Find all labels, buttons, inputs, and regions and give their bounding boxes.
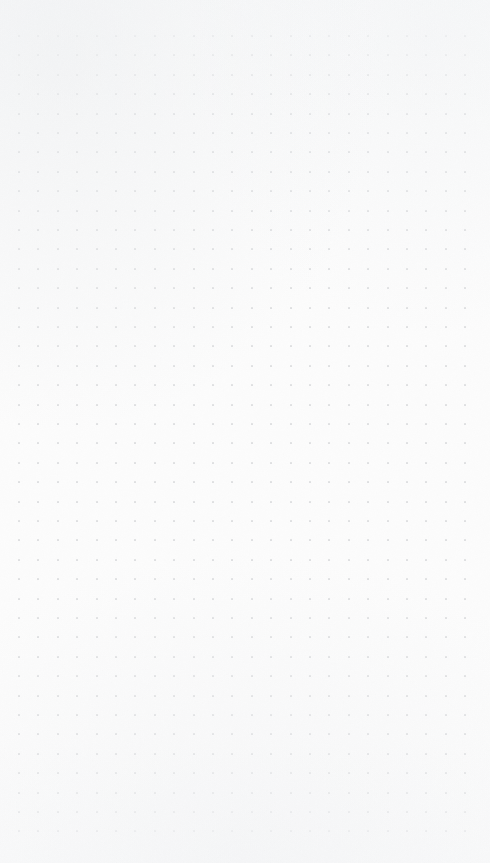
grid-dot	[251, 462, 253, 464]
grid-dot	[173, 753, 175, 755]
grid-dot	[290, 74, 292, 76]
grid-dot	[134, 811, 136, 813]
grid-dot	[96, 190, 98, 192]
grid-dot	[193, 695, 195, 697]
grid-dot	[173, 423, 175, 425]
grid-dot	[464, 714, 466, 716]
grid-dot	[309, 442, 311, 444]
grid-dot	[425, 35, 427, 37]
grid-dot	[212, 772, 214, 774]
grid-dot	[37, 675, 39, 677]
grid-dot	[193, 733, 195, 735]
grid-dot	[309, 559, 311, 561]
grid-dot	[348, 811, 350, 813]
grid-dot	[212, 74, 214, 76]
grid-dot	[76, 307, 78, 309]
grid-dot	[134, 481, 136, 483]
grid-dot	[231, 384, 233, 386]
grid-dot	[251, 210, 253, 212]
grid-dot	[406, 675, 408, 677]
grid-dot	[425, 93, 427, 95]
grid-dot	[270, 501, 272, 503]
grid-dot	[328, 772, 330, 774]
grid-dot	[154, 559, 156, 561]
grid-dot	[290, 733, 292, 735]
grid-dot	[328, 151, 330, 153]
grid-dot	[37, 326, 39, 328]
grid-dot	[154, 695, 156, 697]
grid-dot	[18, 54, 20, 56]
grid-dot	[270, 598, 272, 600]
grid-dot	[348, 326, 350, 328]
grid-dot	[193, 190, 195, 192]
grid-dot	[57, 35, 59, 37]
grid-dot	[445, 287, 447, 289]
grid-dot	[134, 559, 136, 561]
grid-dot	[173, 772, 175, 774]
grid-dot	[154, 539, 156, 541]
grid-dot	[290, 54, 292, 56]
grid-dot	[406, 559, 408, 561]
grid-dot	[464, 35, 466, 37]
grid-dot	[290, 462, 292, 464]
grid-dot	[18, 598, 20, 600]
grid-dot	[387, 733, 389, 735]
grid-dot	[348, 695, 350, 697]
grid-dot	[134, 307, 136, 309]
grid-dot	[464, 462, 466, 464]
grid-dot	[270, 675, 272, 677]
grid-dot	[37, 345, 39, 347]
grid-dot	[309, 248, 311, 250]
grid-dot	[231, 753, 233, 755]
grid-dot	[387, 384, 389, 386]
grid-dot	[231, 404, 233, 406]
grid-dot	[96, 210, 98, 212]
grid-dot	[18, 384, 20, 386]
grid-dot	[76, 404, 78, 406]
grid-dot	[37, 539, 39, 541]
grid-dot	[251, 190, 253, 192]
grid-dot	[76, 598, 78, 600]
grid-dot	[445, 481, 447, 483]
grid-dot	[18, 695, 20, 697]
grid-dot	[76, 132, 78, 134]
grid-dot	[173, 617, 175, 619]
grid-dot	[57, 287, 59, 289]
grid-dot	[76, 753, 78, 755]
grid-dot	[212, 326, 214, 328]
grid-dot	[37, 190, 39, 192]
grid-dot	[251, 695, 253, 697]
grid-dot	[425, 248, 427, 250]
grid-dot	[387, 54, 389, 56]
grid-dot	[309, 35, 311, 37]
grid-dot	[154, 151, 156, 153]
grid-dot	[37, 229, 39, 231]
grid-dot	[154, 404, 156, 406]
grid-dot	[387, 811, 389, 813]
grid-dot	[445, 598, 447, 600]
grid-dot	[328, 792, 330, 794]
grid-dot	[328, 598, 330, 600]
grid-dot	[464, 442, 466, 444]
grid-dot	[115, 384, 117, 386]
grid-dot	[290, 190, 292, 192]
grid-dot	[154, 792, 156, 794]
grid-dot	[270, 171, 272, 173]
grid-dot	[270, 190, 272, 192]
grid-dot	[290, 753, 292, 755]
grid-dot	[425, 307, 427, 309]
grid-dot	[154, 326, 156, 328]
grid-dot	[134, 229, 136, 231]
grid-dot	[348, 229, 350, 231]
grid-dot	[134, 74, 136, 76]
grid-dot	[328, 656, 330, 658]
grid-dot	[154, 190, 156, 192]
grid-dot	[134, 384, 136, 386]
grid-dot	[309, 733, 311, 735]
grid-dot	[18, 287, 20, 289]
grid-dot	[290, 811, 292, 813]
grid-dot	[425, 792, 427, 794]
grid-dot	[348, 423, 350, 425]
grid-dot	[328, 520, 330, 522]
blank-dot-grid-canvas[interactable]: Empty canvas	[0, 0, 490, 863]
